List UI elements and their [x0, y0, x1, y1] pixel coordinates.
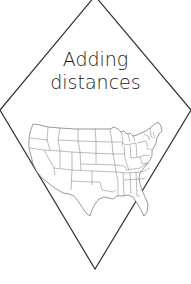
worksheet-cover-card: Adding distances [0, 0, 191, 284]
us-map-icon [0, 0, 191, 284]
